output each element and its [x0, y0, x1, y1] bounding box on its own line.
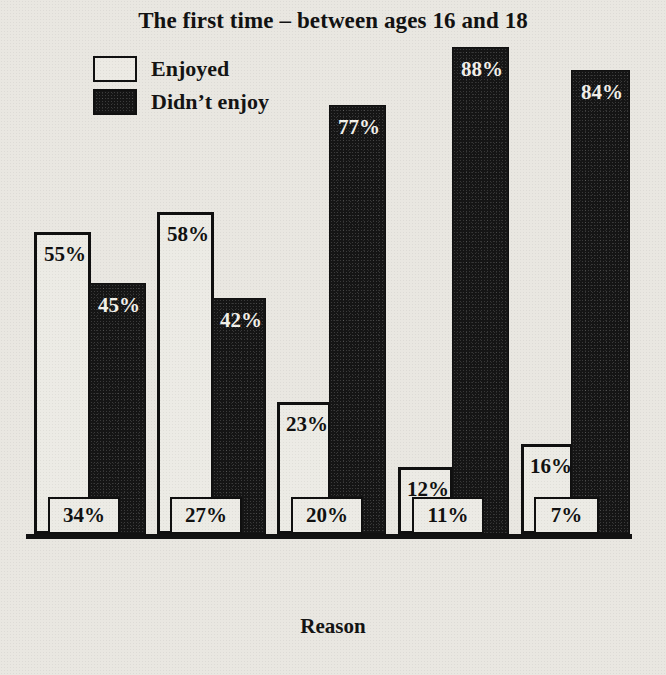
bar-didnt-enjoy-4: 88%	[452, 47, 509, 534]
bar-value-baseline-5: 7%	[534, 497, 599, 534]
bar-value-baseline-1: 34%	[48, 497, 120, 534]
bar-value-enjoyed-1: 55%	[44, 244, 86, 265]
bar-value-didnt-enjoy-1: 45%	[98, 295, 140, 316]
bar-value-didnt-enjoy-3: 77%	[338, 117, 380, 138]
bar-value-baseline-2: 27%	[170, 497, 242, 534]
bar-didnt-enjoy-3: 77%	[329, 105, 386, 534]
bar-value-didnt-enjoy-4: 88%	[461, 59, 503, 80]
bar-enjoyed-2: 58%	[157, 212, 214, 534]
x-axis-title: Reason	[0, 614, 666, 639]
bar-enjoyed-1: 55%	[34, 232, 91, 534]
bar-chart: The first time – between ages 16 and 18 …	[0, 0, 666, 675]
bar-value-didnt-enjoy-5: 84%	[581, 82, 623, 103]
bar-value-baseline-4: 11%	[412, 497, 484, 534]
bar-value-enjoyed-3: 23%	[286, 414, 328, 435]
bar-value-didnt-enjoy-2: 42%	[220, 310, 262, 331]
plot-area: 55% 45% 34% I wanted to with that partic…	[0, 0, 666, 675]
x-axis-baseline	[26, 534, 632, 539]
bar-value-enjoyed-2: 58%	[167, 224, 209, 245]
bar-didnt-enjoy-5: 84%	[571, 70, 630, 534]
bar-value-enjoyed-5: 16%	[530, 456, 572, 477]
bar-value-baseline-3: 20%	[291, 497, 363, 534]
